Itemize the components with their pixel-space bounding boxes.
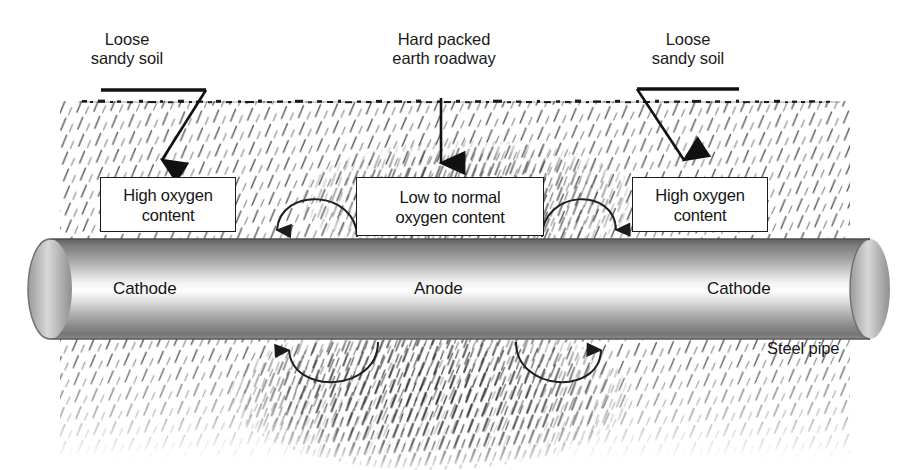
pipe-label-right-cathode: Cathode (707, 279, 771, 299)
callout-right-soil: Loose sandy soil (633, 30, 743, 68)
pipe-label-left-cathode: Cathode (113, 279, 177, 299)
box-right-oxygen-content: High oxygen content (632, 177, 768, 232)
box-left-oxygen-content: High oxygen content (100, 177, 236, 232)
callout-left-soil: Loose sandy soil (72, 30, 182, 68)
callout-center-roadway: Hard packed earth roadway (358, 30, 530, 68)
steel-pipe-caption: Steel pipe (767, 339, 839, 358)
box-center-oxygen-content: Low to normal oxygen content (356, 177, 544, 236)
pipe-label-anode: Anode (414, 279, 463, 299)
diagram-canvas: Loose sandy soil Hard packed earth roadw… (0, 0, 904, 470)
